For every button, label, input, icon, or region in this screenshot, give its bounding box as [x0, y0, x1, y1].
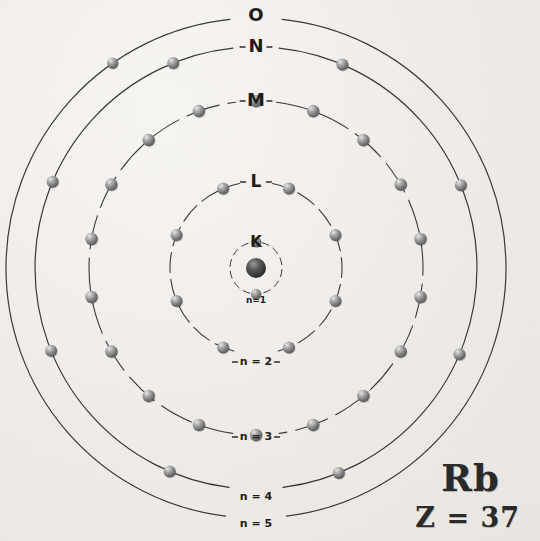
electron — [453, 348, 466, 361]
electron-body — [105, 178, 117, 190]
electron — [307, 419, 320, 432]
electron — [85, 291, 98, 304]
electron — [283, 183, 296, 196]
shell-letter-label: M — [247, 89, 265, 110]
electron — [47, 176, 60, 189]
electron-body — [107, 58, 118, 69]
electron-body — [193, 105, 205, 117]
electron — [164, 465, 177, 478]
shell-letter-label: L — [251, 171, 262, 191]
electron-body — [105, 345, 117, 357]
electron-body — [414, 291, 426, 303]
electron — [333, 467, 346, 480]
electron — [217, 341, 230, 354]
electron-body — [455, 179, 467, 191]
electron — [171, 295, 184, 308]
electron — [414, 291, 427, 304]
electron — [455, 179, 468, 192]
electron — [329, 229, 342, 242]
electron — [217, 183, 230, 196]
electron-body — [307, 419, 319, 431]
electron-body — [217, 183, 229, 195]
electron — [414, 233, 427, 246]
shell-arc — [282, 19, 506, 516]
electron-body — [394, 178, 406, 190]
shell-arc — [276, 102, 423, 433]
electron-body — [333, 467, 345, 479]
electron-body — [453, 348, 465, 360]
electron — [142, 390, 155, 403]
electron-body — [142, 134, 154, 146]
electron — [193, 419, 206, 432]
electron-body — [394, 345, 406, 357]
electron-body — [357, 134, 369, 146]
electron — [283, 341, 296, 354]
electron-body — [171, 229, 183, 241]
nucleus — [246, 258, 266, 278]
electron-body — [217, 341, 229, 353]
electron-body — [307, 105, 319, 117]
electron — [394, 178, 407, 191]
electron-body — [283, 341, 295, 353]
electron — [357, 390, 370, 403]
shell-arc — [272, 184, 342, 351]
electron-body — [357, 390, 369, 402]
shell-arc — [6, 19, 230, 516]
electron-body — [45, 345, 57, 357]
electron-body — [47, 176, 59, 188]
electron — [336, 59, 349, 72]
shell-arc — [89, 102, 236, 433]
electron — [85, 233, 98, 246]
shell-n-label: n = 2 — [240, 355, 272, 368]
electron — [45, 345, 58, 358]
electron — [329, 295, 342, 308]
diagram-canvas: Kn=1Ln = 2Mn = 3Nn = 4On = 5 Rb Z = 37 — [0, 0, 540, 541]
electron-body — [414, 233, 426, 245]
electron-body — [329, 295, 341, 307]
atomic-number-label: Z = 37 — [415, 502, 520, 533]
element-symbol: Rb — [415, 459, 526, 498]
electron — [307, 105, 320, 118]
nucleus-core — [246, 258, 266, 278]
shell-n-label: n = 3 — [240, 430, 272, 443]
element-identity-block: Rb Z = 37 — [415, 459, 526, 533]
electron — [394, 345, 407, 358]
electron-body — [85, 233, 97, 245]
shell-n-label: n = 4 — [240, 490, 273, 503]
shell-n-label: n=1 — [246, 295, 266, 305]
electron-body — [142, 390, 154, 402]
electron-body — [336, 59, 348, 71]
shell-letter-label: N — [248, 35, 263, 56]
electron-body — [283, 183, 295, 195]
electron — [105, 178, 118, 191]
shell-n-label: n = 5 — [240, 517, 272, 530]
shell-letter-label: K — [250, 233, 263, 251]
electron-body — [167, 57, 179, 69]
electron — [105, 345, 118, 358]
electron — [167, 57, 180, 70]
electron-body — [85, 291, 97, 303]
electron — [171, 229, 184, 242]
shell-letter-label: O — [248, 4, 263, 25]
electron-body — [193, 419, 205, 431]
electron-body — [329, 229, 341, 241]
electron-body — [164, 465, 176, 477]
shell-arc — [170, 184, 240, 351]
electron — [193, 105, 206, 118]
electron — [357, 134, 370, 147]
electron-body — [171, 295, 183, 307]
